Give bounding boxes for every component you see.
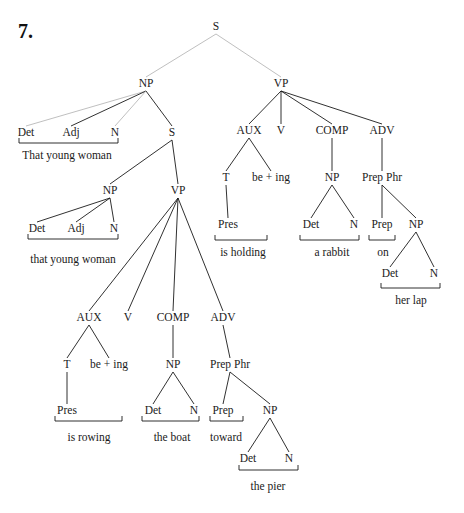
tree-edges bbox=[26, 34, 434, 452]
tree-node-be-ing: be + ing bbox=[90, 358, 128, 371]
tree-node-prep-phr: Prep Phr bbox=[362, 171, 402, 184]
tree-node-adv: ADV bbox=[211, 311, 237, 323]
bracket-line bbox=[55, 416, 122, 421]
tree-edge bbox=[226, 185, 228, 218]
phrase-text: toward bbox=[210, 431, 242, 443]
tree-node-s: S bbox=[169, 126, 175, 138]
tree-node-det: Det bbox=[145, 404, 162, 416]
tree-edge bbox=[311, 185, 332, 218]
tree-edge bbox=[110, 140, 172, 184]
tree-node-np: NP bbox=[139, 77, 154, 89]
tree-node-prep: Prep bbox=[371, 218, 392, 231]
tree-node-prep: Prep bbox=[212, 404, 233, 417]
tree-edge bbox=[115, 91, 146, 126]
phrase-text: her lap bbox=[395, 294, 427, 307]
tree-node-prep-phr: Prep Phr bbox=[210, 358, 250, 371]
tree-edge bbox=[416, 232, 434, 267]
tree-edge bbox=[382, 185, 416, 218]
bracket-line bbox=[19, 138, 118, 143]
tree-node-n: N bbox=[110, 222, 119, 234]
phrase-text: on bbox=[377, 246, 389, 258]
phrase-text: the pier bbox=[251, 480, 286, 493]
tree-nodes: SNPVPDetAdjNSNPVPDetAdjNAUXVCOMPADVTbe +… bbox=[18, 20, 439, 464]
tree-edge bbox=[216, 34, 281, 77]
bracket-line bbox=[369, 235, 395, 240]
tree-edge bbox=[223, 372, 230, 404]
tree-node-np: NP bbox=[409, 218, 424, 230]
phrase-text: the boat bbox=[154, 431, 192, 443]
tree-edge bbox=[146, 34, 216, 77]
tree-edge bbox=[332, 185, 354, 218]
tree-node-adv: ADV bbox=[370, 124, 396, 136]
tree-edge bbox=[226, 138, 249, 171]
tree-edge bbox=[146, 91, 172, 126]
phrase-text: is rowing bbox=[67, 431, 110, 444]
bracket-line bbox=[142, 416, 199, 421]
tree-node-vp: VP bbox=[274, 77, 289, 89]
tree-edge bbox=[128, 198, 178, 311]
bracket-line bbox=[381, 283, 440, 288]
tree-node-n: N bbox=[285, 452, 294, 464]
phrase-text: That young woman bbox=[22, 149, 112, 162]
tree-edge bbox=[270, 418, 289, 452]
figure-number: 7. bbox=[18, 20, 33, 42]
tree-edge bbox=[110, 198, 114, 222]
bracket-line bbox=[300, 235, 359, 240]
tree-edge bbox=[89, 325, 109, 358]
bracket-line bbox=[215, 235, 267, 240]
tree-node-pres: Pres bbox=[218, 218, 238, 230]
tree-node-v: V bbox=[124, 311, 133, 323]
tree-edge bbox=[230, 372, 270, 404]
tree-edge bbox=[249, 138, 271, 171]
tree-node-comp: COMP bbox=[157, 311, 190, 323]
tree-edge bbox=[248, 418, 270, 452]
tree-node-n: N bbox=[190, 404, 199, 416]
tree-node-aux: AUX bbox=[237, 124, 263, 136]
tree-node-n: N bbox=[430, 267, 439, 279]
tree-node-det: Det bbox=[240, 452, 257, 464]
tree-node-det: Det bbox=[29, 222, 46, 234]
tree-node-v: V bbox=[277, 124, 286, 136]
tree-node-t: T bbox=[63, 358, 70, 370]
tree-edge bbox=[76, 198, 110, 222]
tree-node-np: NP bbox=[166, 358, 181, 370]
tree-node-n: N bbox=[111, 126, 120, 138]
tree-node-np: NP bbox=[325, 171, 340, 183]
bracket-line bbox=[28, 234, 118, 239]
tree-edge bbox=[71, 91, 146, 126]
tree-node-adj: Adj bbox=[67, 222, 84, 235]
tree-node-s: S bbox=[213, 20, 219, 32]
tree-edge bbox=[173, 198, 178, 311]
tree-node-det: Det bbox=[303, 218, 320, 230]
tree-edge bbox=[390, 232, 416, 267]
tree-edge bbox=[173, 372, 194, 404]
tree-edge bbox=[281, 91, 382, 124]
tree-edge bbox=[281, 91, 332, 124]
tree-node-det: Det bbox=[382, 267, 399, 279]
phrase-text: is holding bbox=[220, 246, 266, 259]
bracket-line bbox=[239, 465, 298, 470]
tree-node-np: NP bbox=[103, 184, 118, 196]
tree-node-adj: Adj bbox=[62, 126, 79, 139]
phrase-text: that young woman bbox=[30, 253, 116, 266]
tree-node-pres: Pres bbox=[57, 404, 77, 416]
tree-edge bbox=[172, 140, 178, 184]
phrase-text: a rabbit bbox=[315, 246, 351, 258]
tree-node-t: T bbox=[222, 171, 229, 183]
tree-node-be-ing: be + ing bbox=[252, 171, 290, 184]
tree-node-det: Det bbox=[18, 126, 35, 138]
bracket-line bbox=[210, 416, 243, 421]
tree-node-n: N bbox=[350, 218, 359, 230]
tree-edge bbox=[223, 325, 230, 358]
tree-edge bbox=[249, 91, 281, 124]
tree-node-comp: COMP bbox=[316, 124, 349, 136]
tree-edge bbox=[26, 91, 146, 126]
tree-edge bbox=[153, 372, 173, 404]
tree-edge bbox=[67, 325, 89, 358]
tree-node-aux: AUX bbox=[77, 311, 103, 323]
syntax-tree-diagram: 7. That young womanthat young womanis ro… bbox=[0, 0, 464, 513]
tree-node-vp: VP bbox=[171, 184, 186, 196]
tree-node-np: NP bbox=[263, 404, 278, 416]
tree-edge bbox=[178, 198, 223, 311]
tree-edge bbox=[37, 198, 110, 222]
